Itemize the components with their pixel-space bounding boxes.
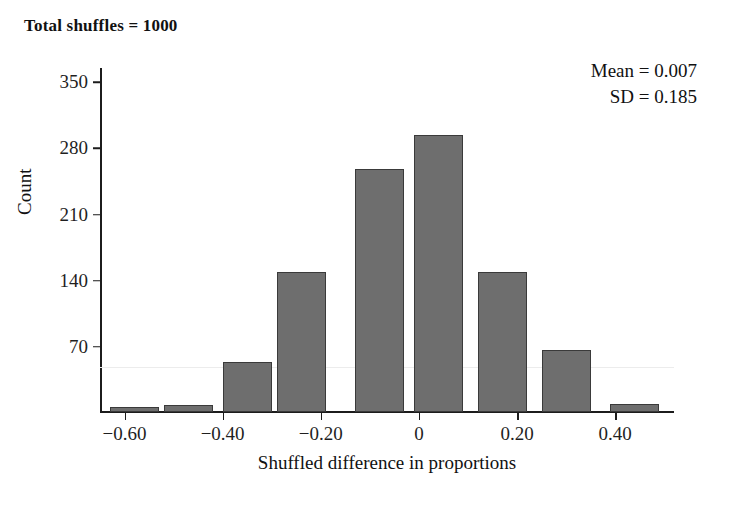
- histogram-bar: [223, 362, 272, 412]
- x-axis-tick-mark: [419, 413, 421, 420]
- y-axis-tick-mark: [93, 346, 100, 348]
- histogram-figure: Total shuffles = 1000 Mean = 0.007 SD = …: [0, 0, 739, 505]
- y-axis-tick-label: 70: [69, 336, 88, 358]
- y-axis-tick-mark: [93, 214, 100, 216]
- x-axis-tick-label: 0: [414, 423, 424, 445]
- x-axis-tick-label: 0.40: [599, 423, 632, 445]
- x-axis-tick-mark: [321, 413, 323, 420]
- histogram-bar: [414, 135, 463, 412]
- y-axis-title: Count: [14, 169, 36, 215]
- histogram-bar: [164, 405, 213, 412]
- y-axis-tick-label: 350: [60, 71, 89, 93]
- y-axis-tick-mark: [93, 81, 100, 83]
- y-axis-tick-mark: [93, 148, 100, 150]
- histogram-bar: [478, 272, 527, 412]
- histogram-bar: [110, 407, 159, 412]
- x-axis-tick-label: −0.60: [103, 423, 147, 445]
- histogram-bar: [355, 169, 404, 412]
- page-title: Total shuffles = 1000: [24, 16, 178, 36]
- histogram-bar: [610, 404, 659, 412]
- histogram-bar: [542, 350, 591, 412]
- y-axis-line: [100, 68, 102, 413]
- x-axis-title: Shuffled difference in proportions: [100, 452, 674, 474]
- y-axis-tick-label: 280: [60, 137, 89, 159]
- histogram-bar: [277, 272, 326, 412]
- x-axis-tick-mark: [223, 413, 225, 420]
- y-axis-tick-label: 210: [60, 204, 89, 226]
- plot-area: 70140210280350 −0.60−0.40−0.2000.200.40: [100, 68, 674, 413]
- x-axis-tick-label: −0.20: [299, 423, 343, 445]
- x-axis-tick-label: −0.40: [201, 423, 245, 445]
- x-axis-tick-mark: [517, 413, 519, 420]
- y-axis-tick-label: 140: [60, 270, 89, 292]
- y-axis-tick-mark: [93, 280, 100, 282]
- x-axis-tick-label: 0.20: [500, 423, 533, 445]
- x-axis-tick-mark: [125, 413, 127, 420]
- x-axis-tick-mark: [615, 413, 617, 420]
